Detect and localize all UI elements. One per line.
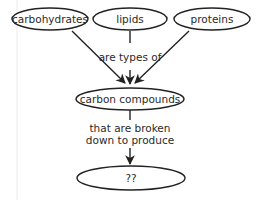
node-proteins: proteins bbox=[174, 8, 250, 30]
node-carbohydrates: carbohydrates bbox=[12, 8, 88, 30]
node-label-proteins: proteins bbox=[191, 13, 234, 25]
link-label-are-types-of: are types of bbox=[99, 51, 162, 63]
link-label-broken-line2: down to produce bbox=[86, 134, 174, 146]
node-label-carbohydrates: carbohydrates bbox=[12, 13, 88, 25]
link-label-broken-line1: that are broken bbox=[90, 122, 171, 134]
node-carbon-compounds: carbon compounds bbox=[76, 88, 184, 110]
node-label-carbon-compounds: carbon compounds bbox=[80, 93, 181, 105]
node-lipids: lipids bbox=[93, 8, 167, 30]
node-unknown: ?? bbox=[77, 166, 185, 190]
concept-map: are types of that are broken down to pro… bbox=[0, 0, 261, 200]
node-label-unknown: ?? bbox=[125, 172, 136, 184]
node-label-lipids: lipids bbox=[116, 13, 144, 25]
